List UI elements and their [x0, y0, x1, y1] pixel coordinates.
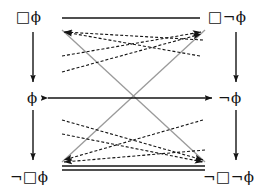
node-box-not-phi: □¬ϕ: [208, 10, 246, 25]
edge-dashed-to-bottom-right-b: [62, 134, 203, 162]
node-box-phi: □ϕ: [16, 10, 41, 25]
edge-dashed-to-bottom-left-b: [64, 150, 205, 162]
modal-square-diagram: □ϕ □¬ϕ ϕ ¬ϕ ¬□ϕ ¬□¬ϕ: [0, 0, 279, 196]
edge-dashed-to-bottom-left-a: [64, 120, 203, 160]
node-not-phi: ¬ϕ: [218, 91, 242, 106]
node-not-box-phi: ¬□ϕ: [10, 170, 48, 185]
node-not-box-not-phi: ¬□¬ϕ: [203, 170, 255, 185]
node-phi: ϕ: [27, 91, 38, 106]
